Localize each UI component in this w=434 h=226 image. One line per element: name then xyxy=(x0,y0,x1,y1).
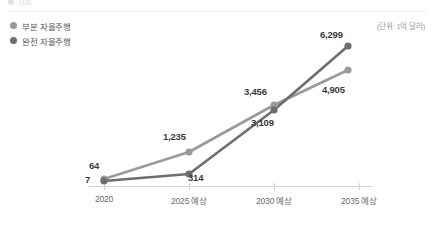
x-axis-label-2025: 2025 예상 xyxy=(171,194,207,206)
x-axis-label-2030: 2030 예상 xyxy=(256,194,292,206)
x-axis-label-2035: 2035 예상 xyxy=(341,194,377,206)
value-label-full-2035: 6,299 xyxy=(320,29,343,40)
x-axis-label-2020: 2020 xyxy=(95,194,113,204)
data-point-marker xyxy=(344,66,351,73)
value-label-full-2030: 3,109 xyxy=(251,117,274,128)
autonomous-driving-market-line-chart: 자료 부분 자율주행 완전 자율주행 (단위: 1억 달러) xyxy=(0,0,434,226)
data-point-marker xyxy=(185,148,192,155)
data-point-marker xyxy=(100,177,107,184)
data-point-marker xyxy=(344,42,351,49)
value-label-partial-2025: 1,235 xyxy=(163,131,186,142)
value-label-full-2025: 314 xyxy=(188,172,203,183)
series-line-full-autonomous xyxy=(104,46,348,181)
value-label-partial-2020: 64 xyxy=(89,160,99,171)
data-point-marker xyxy=(270,106,277,113)
series-line-partial-autonomous xyxy=(104,70,348,179)
plot-area xyxy=(0,0,434,226)
value-label-full-2020: 7 xyxy=(85,174,90,185)
value-label-partial-2030: 3,456 xyxy=(244,86,267,97)
value-label-partial-2035: 4,905 xyxy=(322,84,345,95)
